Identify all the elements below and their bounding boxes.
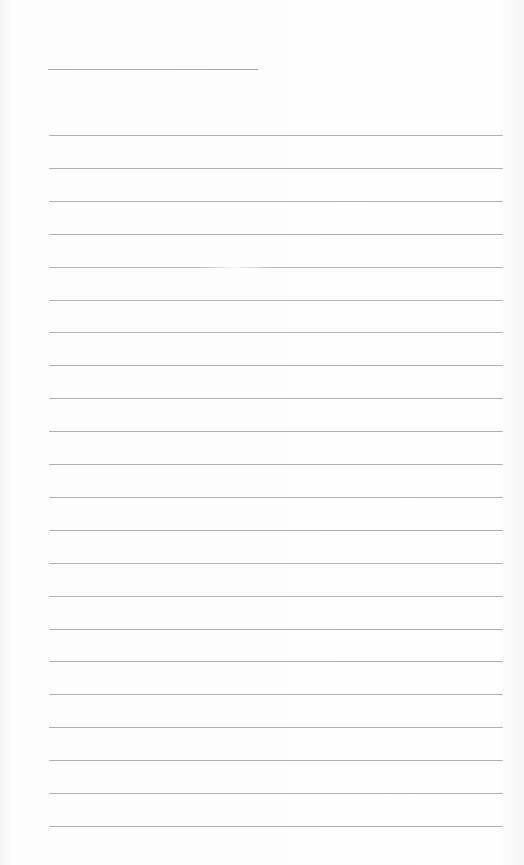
title-line (48, 69, 258, 70)
ruled-line (49, 201, 503, 202)
ruled-line (49, 530, 503, 531)
ruled-line (49, 168, 503, 169)
ruled-line (49, 826, 503, 827)
ruled-line (49, 727, 503, 728)
ruled-line (49, 464, 503, 465)
ruled-line (49, 497, 503, 498)
ruled-line (49, 563, 503, 564)
ruled-line (49, 135, 503, 136)
ruled-line (49, 596, 503, 597)
ruled-line (49, 694, 503, 695)
ruled-line (49, 332, 503, 333)
ruled-line (49, 234, 503, 235)
ruled-line (49, 398, 503, 399)
ruled-line (49, 629, 503, 630)
ruled-line (49, 365, 503, 366)
lined-paper-page (0, 0, 524, 865)
ruled-line (49, 431, 503, 432)
ruled-line (49, 267, 503, 268)
ruled-line (49, 760, 503, 761)
light-glare (195, 262, 275, 272)
ruled-line (49, 661, 503, 662)
ruled-line (49, 300, 503, 301)
ruled-line (49, 793, 503, 794)
